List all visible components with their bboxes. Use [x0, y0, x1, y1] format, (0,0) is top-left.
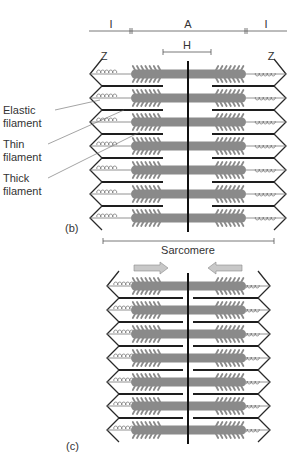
panel-c-contracted-sarcomere: [107, 271, 270, 444]
contraction-arrow-right: [134, 262, 168, 274]
thick-filament-label: Thick: [3, 172, 30, 184]
i-band-left-label: I: [109, 18, 112, 30]
panel-c-label: (c): [66, 440, 79, 452]
h-zone-label: H: [183, 39, 191, 51]
thin-filament-label-line2: filament: [3, 151, 42, 163]
sarcomere-diagram: I A I H Z Z Elastic filament Thin filame…: [0, 0, 301, 462]
elastic-filament-label-line2: filament: [3, 117, 42, 129]
z-line-right-label: Z: [268, 50, 275, 62]
i-band-right-label: I: [264, 18, 267, 30]
thick-filament-label-line2: filament: [3, 185, 42, 197]
contraction-arrow-left: [208, 262, 242, 274]
sarcomere-label: Sarcomere: [161, 244, 215, 256]
thin-filament-label: Thin: [3, 138, 24, 150]
panel-b-relaxed-sarcomere: [90, 59, 286, 232]
panel-b-label: (b): [65, 222, 78, 234]
elastic-filament-label: Elastic: [3, 104, 36, 116]
a-band-label: A: [184, 18, 192, 30]
